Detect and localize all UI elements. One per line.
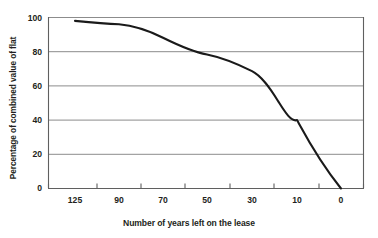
ytick-label-20: 20 [14, 149, 42, 159]
xtick-label-0: 0 [323, 195, 359, 205]
x-tick-marks [49, 184, 364, 189]
xtick-label-10: 10 [279, 195, 315, 205]
value-decay-curve [75, 21, 341, 189]
xtick-label-70: 70 [145, 195, 181, 205]
ytick-label-60: 60 [14, 81, 42, 91]
y-axis-title: Percentage of combined value of flat [8, 23, 18, 193]
ytick-label-80: 80 [14, 47, 42, 57]
xtick-label-125: 125 [57, 195, 93, 205]
xtick-label-30: 30 [234, 195, 270, 205]
xtick-label-90: 90 [101, 195, 137, 205]
x-axis-title: Number of years left on the lease [0, 218, 378, 228]
ytick-label-0: 0 [14, 183, 42, 193]
horizontal-gridlines [48, 18, 364, 155]
lease-value-line-chart: 100 80 60 40 20 0 125 90 70 50 30 10 0 P… [0, 0, 378, 238]
plot-frame [48, 17, 364, 189]
ytick-label-100: 100 [14, 13, 42, 23]
ytick-label-40: 40 [14, 115, 42, 125]
xtick-label-50: 50 [189, 195, 225, 205]
